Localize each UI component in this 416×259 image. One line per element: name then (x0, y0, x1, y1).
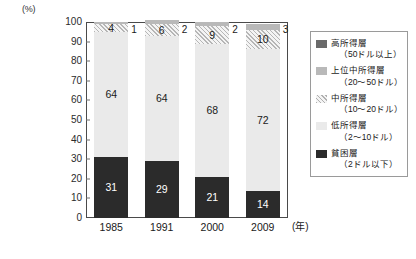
legend-label-name: 貧困層 (331, 148, 358, 158)
bar-segment-poverty: 14 (246, 191, 280, 218)
segment-value-label: 29 (156, 184, 168, 195)
y-axis-tick-30: 30 (44, 154, 82, 164)
bar-top-callout-1985: 1 (131, 25, 137, 35)
bar-segment-low: 68 (195, 44, 229, 177)
bar-1991: 66429 (145, 20, 179, 218)
legend-item-uppermid[interactable]: 上位中所得層（20〜50ドル） (316, 65, 402, 87)
bar-segment-mid: 10 (246, 30, 280, 50)
legend-label-mid: 中所得層（10〜20ドル） (331, 93, 402, 115)
legend-label-poverty: 貧困層（2ドル以下） (331, 148, 398, 170)
legend-swatch-uppermid (316, 67, 327, 75)
y-axis-tick-70: 70 (44, 76, 82, 86)
y-axis-tick-labels: 1009080706050403020100 (0, 0, 82, 259)
y-axis-tick-50: 50 (44, 115, 82, 125)
legend-label-high: 高所得層（50ドル以上） (331, 38, 402, 60)
bar-segment-mid: 9 (195, 26, 229, 44)
legend-swatch-mid (316, 95, 327, 103)
bar-series-group: 464316642996821107214 (86, 22, 288, 218)
segment-value-label: 64 (156, 93, 168, 104)
y-axis-tick-80: 80 (44, 56, 82, 66)
bar-segment-poverty: 21 (195, 177, 229, 218)
bar-segment-mid: 6 (145, 24, 179, 36)
y-axis-tick-mark (86, 61, 90, 62)
bar-segment-poverty: 29 (145, 161, 179, 218)
segment-value-label: 68 (206, 105, 218, 116)
legend-label-range: （10〜20ドル） (331, 104, 402, 115)
bar-segment-low: 64 (145, 36, 179, 161)
y-axis-tick-mark (86, 100, 90, 101)
bar-segment-low: 72 (246, 49, 280, 190)
y-axis-tick-40: 40 (44, 135, 82, 145)
chart-legend: 高所得層（50ドル以上）上位中所得層（20〜50ドル）中所得層（10〜20ドル）… (310, 31, 408, 177)
x-axis-tick-1991: 1991 (138, 222, 186, 233)
legend-item-low[interactable]: 低所得層（2〜10ドル） (316, 120, 402, 142)
bar-segment-poverty: 31 (94, 157, 128, 218)
y-axis-tick-0: 0 (44, 213, 82, 223)
legend-item-high[interactable]: 高所得層（50ドル以上） (316, 38, 402, 60)
legend-label-name: 中所得層 (331, 93, 367, 103)
legend-item-poverty[interactable]: 貧困層（2ドル以下） (316, 148, 402, 170)
x-axis-tick-2009: 2009 (239, 222, 287, 233)
x-axis-tick-1985: 1985 (87, 222, 135, 233)
y-axis-tick-mark (86, 139, 90, 140)
segment-value-label: 31 (105, 182, 117, 193)
y-axis-tick-mark (86, 198, 90, 199)
y-axis-tick-mark (86, 159, 90, 160)
x-axis-tick-labels: 1985199120002009 (86, 222, 288, 240)
y-axis-tick-90: 90 (44, 37, 82, 47)
legend-item-mid[interactable]: 中所得層（10〜20ドル） (316, 93, 402, 115)
y-axis-tick-100: 100 (44, 17, 82, 27)
segment-value-label: 72 (257, 115, 269, 126)
x-axis-unit-label: (年) (292, 222, 309, 232)
segment-value-label: 64 (105, 89, 117, 100)
legend-label-name: 低所得層 (331, 120, 367, 130)
y-axis-tick-mark (86, 41, 90, 42)
legend-label-uppermid: 上位中所得層（20〜50ドル） (331, 65, 402, 87)
bar-2009: 107214 (246, 24, 280, 218)
segment-value-label: 10 (257, 34, 269, 45)
chart-container: (%) 1009080706050403020100 4643166429968… (0, 0, 416, 259)
bar-segment-low: 64 (94, 32, 128, 157)
legend-swatch-low (316, 122, 327, 130)
segment-value-label: 4 (108, 23, 114, 34)
bar-1985: 46431 (94, 22, 128, 218)
y-axis-tick-20: 20 (44, 174, 82, 184)
bar-segment-mid: 4 (94, 24, 128, 32)
x-axis-tick-2000: 2000 (188, 222, 236, 233)
legend-label-name: 上位中所得層 (331, 65, 385, 75)
bar-2000: 96821 (195, 22, 229, 218)
segment-value-label: 9 (209, 30, 215, 41)
segment-value-label: 21 (206, 192, 218, 203)
legend-label-range: （20〜50ドル） (331, 77, 402, 88)
y-axis-tick-mark (86, 178, 90, 179)
legend-label-low: 低所得層（2〜10ドル） (331, 120, 398, 142)
bar-top-callout-2000: 2 (232, 25, 238, 35)
y-axis-tick-mark (86, 80, 90, 81)
legend-label-range: （50ドル以上） (331, 49, 402, 60)
y-axis-tick-60: 60 (44, 95, 82, 105)
y-axis-tick-10: 10 (44, 193, 82, 203)
segment-value-label: 6 (159, 25, 165, 36)
bar-top-callout-1991: 2 (182, 25, 188, 35)
legend-swatch-poverty (316, 150, 327, 158)
legend-swatch-high (316, 40, 327, 48)
y-axis-tick-mark (86, 120, 90, 121)
segment-value-label: 14 (257, 199, 269, 210)
legend-label-name: 高所得層 (331, 38, 367, 48)
legend-label-range: （2〜10ドル） (331, 132, 398, 143)
bar-top-callout-2009: 3 (283, 25, 289, 35)
legend-label-range: （2ドル以下） (331, 159, 398, 170)
